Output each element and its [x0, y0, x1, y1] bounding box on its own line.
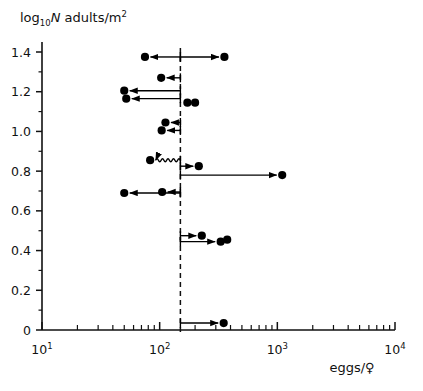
y-tick-label: 0.6 [11, 203, 31, 218]
y-tick-label: 0.4 [11, 243, 31, 258]
figure-container: 00.20.40.60.81.01.21.4 101102103104 log1… [0, 0, 423, 391]
data-point [158, 188, 166, 196]
plot-background [0, 0, 423, 391]
y-tick-label: 0.8 [11, 164, 31, 179]
data-point [278, 171, 286, 179]
data-point [223, 236, 231, 244]
y-tick-label: 0 [23, 323, 31, 338]
data-point [191, 99, 199, 107]
data-point [146, 156, 154, 164]
data-point [220, 319, 228, 327]
y-tick-label: 1.0 [11, 124, 31, 139]
data-point [195, 162, 203, 170]
data-point [161, 118, 169, 126]
data-point [120, 87, 128, 95]
scatter-plot: 00.20.40.60.81.01.21.4 101102103104 log1… [0, 0, 423, 391]
data-point [120, 189, 128, 197]
y-tick-label: 1.4 [11, 45, 31, 60]
x-axis-label: eggs/♀ [329, 360, 374, 375]
data-point [141, 53, 149, 61]
y-tick-label: 0.2 [11, 283, 31, 298]
data-point [220, 53, 228, 61]
data-point [198, 232, 206, 240]
data-point [158, 126, 166, 134]
data-point [183, 99, 191, 107]
data-point [157, 74, 165, 82]
data-point [122, 95, 130, 103]
y-tick-label: 1.2 [11, 84, 31, 99]
